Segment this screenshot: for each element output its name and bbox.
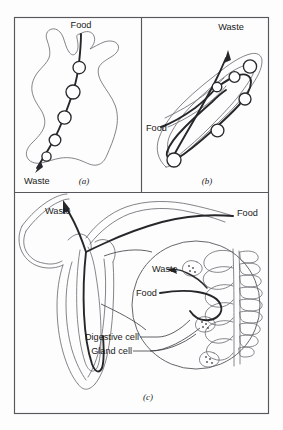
hydra-tentacle-right-b	[90, 208, 225, 244]
hydra-inset-magnifier	[132, 241, 262, 369]
gland-granule-2a	[201, 321, 203, 323]
panel-c-food-label: Food	[237, 208, 258, 218]
gland-granule-2b	[205, 323, 207, 325]
paramecium-vacuole-1	[212, 82, 222, 92]
panel-a-food-label: Food	[71, 20, 92, 30]
panel-a-id: (a)	[79, 176, 90, 186]
inset-food-label: Food	[136, 288, 157, 298]
paramecium-vacuole-4	[239, 93, 251, 105]
paramecium-vacuole-2	[229, 72, 240, 83]
inset-epidermis-cell-7	[240, 323, 260, 335]
gland-cell-leader	[133, 328, 200, 351]
panel-c-id: (c)	[143, 392, 153, 402]
gland-granule-1a	[188, 265, 190, 267]
hydra-tentacle-right-a	[86, 201, 233, 238]
gland-granule-1c	[189, 270, 191, 272]
amoeba-vacuole-1	[73, 61, 85, 73]
figure-root: Food Waste (a)	[0, 0, 283, 430]
paramecium-vacuole-3	[243, 60, 256, 73]
panel-b-id: (b)	[202, 176, 213, 186]
inset-mesoglea-line-a	[233, 249, 234, 366]
gland-granule-3d	[211, 362, 213, 364]
inset-digestive-cell-5	[205, 321, 233, 344]
paramecium-vacuole-6	[167, 153, 181, 167]
inset-connector-lower	[101, 304, 146, 330]
inset-waste-label: Waste	[152, 264, 178, 274]
paramecium-vacuole-5	[211, 124, 224, 137]
panel-a-waste-label: Waste	[24, 176, 50, 186]
gland-granule-1d	[194, 271, 196, 273]
panel-b-waste-label: Waste	[218, 22, 244, 32]
panel-b-paramecium: Waste Food (b)	[146, 22, 262, 186]
hydra-tentacle-left-b	[24, 231, 62, 264]
amoeba-vacuole-2	[66, 85, 80, 99]
amoeba-vacuole-3	[58, 111, 71, 124]
inset-epidermis-cell-2	[240, 263, 260, 275]
inset-connector-upper	[104, 250, 152, 256]
amoeba-vacuole-5	[42, 152, 51, 161]
digestive-cell-label: Digestive cell	[85, 332, 139, 342]
panel-c-hydra: Waste Food Waste Food Digestive cell Gla…	[19, 194, 262, 402]
inset-digestive-cell-1	[204, 250, 233, 272]
digestive-cell-leader	[140, 320, 190, 337]
inset-digestive-cell-6	[207, 339, 233, 361]
gland-granule-2d	[207, 327, 209, 329]
amoeba-vacuole-4	[49, 134, 61, 146]
inset-epidermis-cell-5	[240, 299, 262, 311]
panel-a-amoeba: Food Waste (a)	[24, 20, 119, 186]
inset-epidermis-cell-9	[239, 347, 254, 357]
paramecium-waste-arrowhead	[224, 50, 231, 63]
inset-epidermis-cell-3	[240, 275, 261, 287]
gland-cell-label: Gland cell	[91, 346, 132, 356]
digestion-figure: Food Waste (a)	[0, 0, 283, 430]
panel-b-food-label: Food	[146, 123, 167, 133]
gland-granule-2c	[202, 326, 204, 328]
panel-c-waste-label: Waste	[45, 206, 71, 216]
gland-granule-1b	[192, 267, 194, 269]
hydra-basal-disc	[78, 384, 95, 389]
gland-granule-3b	[209, 358, 211, 360]
gland-granule-3c	[206, 361, 208, 363]
hydra-food-path	[86, 215, 233, 252]
gland-granule-3a	[205, 356, 207, 358]
